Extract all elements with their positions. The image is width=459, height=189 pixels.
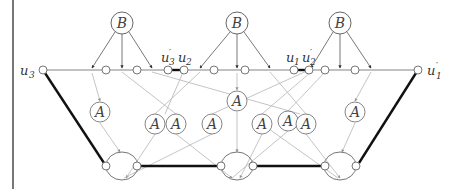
svg-text:A: A (255, 116, 267, 132)
node-u2 (180, 66, 188, 74)
a-node-2: A (145, 114, 165, 134)
svg-text:3: 3 (169, 57, 175, 67)
bottom-gadget-2 (221, 152, 253, 180)
b-edges (92, 32, 371, 68)
label-u2: u 2 (178, 50, 192, 67)
node-u1 (290, 66, 298, 74)
b-node-3: B (329, 12, 351, 34)
svg-text:B: B (231, 15, 242, 31)
gadget-diagram: B B B A A A A A A A A A (0, 0, 459, 189)
svg-text:A: A (169, 116, 181, 132)
terminal-u3-node (39, 66, 47, 74)
svg-text:′: ′ (436, 61, 438, 71)
a-node-7: A (278, 111, 298, 131)
svg-text:1: 1 (294, 57, 300, 67)
svg-text:A: A (348, 104, 360, 120)
terminal-u1-prime-node (414, 66, 422, 74)
a-node-8: A (296, 114, 316, 134)
svg-text:1: 1 (436, 71, 442, 81)
a-node-5: A (202, 114, 222, 134)
label-u1-prime: u ′ 1 (427, 61, 442, 81)
label-u2-prime: u ′ 2 (302, 48, 316, 67)
light-edges (92, 70, 371, 178)
label-u3-prime: u ′ 3 (161, 48, 175, 67)
b-node-1: B (111, 12, 133, 34)
svg-text:2: 2 (185, 57, 192, 67)
svg-text:u: u (427, 63, 435, 78)
label-u3: u 3 (20, 63, 35, 80)
svg-text:A: A (93, 104, 105, 120)
a-node-1: A (90, 102, 110, 122)
a-node-6: A (252, 114, 272, 134)
b-node-2: B (226, 12, 248, 34)
node-u3-prime (164, 66, 172, 74)
bottom-port-nodes (102, 162, 360, 170)
a-node-9: A (345, 102, 365, 122)
svg-text:3: 3 (29, 70, 35, 80)
svg-text:A: A (230, 93, 242, 109)
svg-text:u: u (20, 63, 28, 78)
svg-text:A: A (148, 116, 160, 132)
svg-text:2: 2 (309, 57, 316, 67)
a-node-3: A (166, 114, 186, 134)
a-node-4: A (227, 91, 247, 111)
label-u1: u 1 (286, 50, 300, 67)
svg-text:A: A (205, 116, 217, 132)
svg-text:B: B (334, 15, 345, 31)
svg-text:A: A (299, 116, 311, 132)
svg-text:B: B (116, 15, 127, 31)
node-u2-prime (305, 66, 313, 74)
svg-text:A: A (281, 113, 293, 129)
